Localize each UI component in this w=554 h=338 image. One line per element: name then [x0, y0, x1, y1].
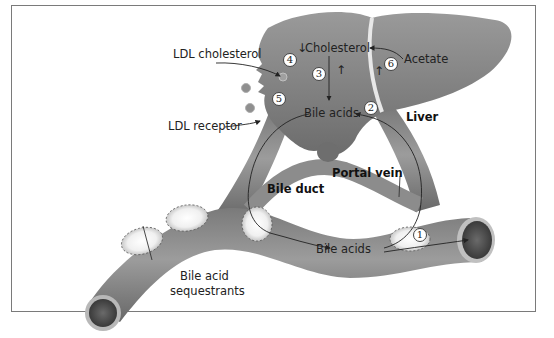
sequestrants-label-line2: sequestrants [170, 286, 245, 298]
liver-label: Liver [406, 112, 438, 124]
liver [256, 12, 511, 162]
step-marker-1: 1 [413, 228, 427, 242]
portal-vein-label: Portal vein [332, 168, 403, 180]
diagram-illustration [0, 0, 554, 338]
increase-arrow-icon: ↑ [336, 64, 346, 76]
step-marker-6: 6 [384, 57, 398, 71]
sequestrants-label-line1: Bile acid [180, 271, 229, 283]
step-marker-5: 5 [272, 92, 286, 106]
cholesterol-label: Cholesterol [305, 43, 370, 55]
bile-duct-label: Bile duct [267, 184, 324, 196]
acetate-label: Acetate [404, 54, 448, 66]
gallbladder [317, 142, 339, 162]
step-marker-4: 4 [283, 53, 297, 67]
intestine [85, 208, 495, 331]
step-marker-2: 2 [364, 101, 378, 115]
increase-arrow-icon: ↑ [374, 65, 384, 77]
bile-acids-liver-label: Bile acids [304, 108, 359, 120]
ldl-cholesterol-label: LDL cholesterol [173, 49, 262, 61]
ldl-receptor-label: LDL receptor [168, 121, 242, 133]
bile-acids-intestine-label: Bile acids [316, 244, 371, 256]
step-marker-3: 3 [312, 67, 326, 81]
